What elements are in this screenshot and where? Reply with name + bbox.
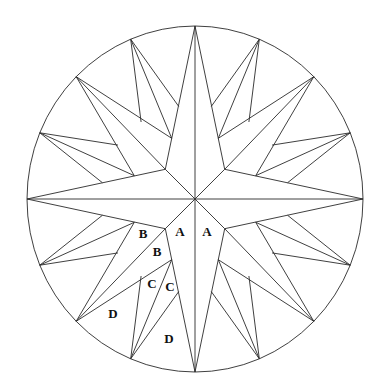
main-arm-edge [165, 26, 195, 169]
tertiary-arm-centerline [256, 133, 351, 176]
main-arm-edge [165, 229, 195, 372]
piece-label-d: D [108, 306, 117, 321]
piece-label-a: A [202, 224, 212, 239]
main-arm-edge [225, 199, 363, 229]
tertiary-arm-centerline [40, 222, 135, 265]
diagonal-arm-edge [76, 77, 172, 139]
tertiary-arm-edge [40, 133, 103, 183]
tertiary-arm-edge [40, 133, 118, 145]
piece-label-a: A [175, 224, 185, 239]
tertiary-arm-edge [40, 253, 118, 265]
diagonal-arm-edge [256, 77, 314, 176]
main-waist-seam [165, 169, 195, 199]
main-arm-edge [195, 26, 225, 169]
piece-label-b: B [153, 244, 162, 259]
tertiary-arm-centerline [40, 133, 135, 176]
piece-label-b: B [139, 226, 148, 241]
main-arm-edge [27, 169, 165, 199]
piece-label-d: D [164, 331, 173, 346]
tertiary-arm-edge [272, 253, 350, 265]
tertiary-arm-edge [40, 215, 103, 265]
diagonal-arm-edge [218, 260, 313, 322]
main-arm-edge [195, 229, 225, 372]
diagonal-arm-edge [76, 77, 134, 176]
diagonal-arm-edge [76, 222, 134, 321]
main-arm-edge [27, 199, 165, 229]
diagonal-arm-edge [76, 260, 172, 322]
tertiary-arm-centerline [256, 222, 351, 265]
compass-rose-diagram: A A B B C C D D [0, 0, 383, 390]
piece-label-c: C [147, 276, 156, 291]
piece-labels: A A B B C C D D [108, 224, 212, 346]
tertiary-arm-edge [288, 215, 351, 265]
tertiary-arm-edge [288, 133, 351, 183]
diagonal-arm-edge [256, 222, 314, 321]
tertiary-arm-edge [272, 133, 350, 145]
diagonal-arm-edge [218, 77, 313, 139]
main-waist-seam [195, 169, 225, 199]
piece-label-c: C [165, 279, 174, 294]
main-arm-edge [225, 169, 363, 199]
